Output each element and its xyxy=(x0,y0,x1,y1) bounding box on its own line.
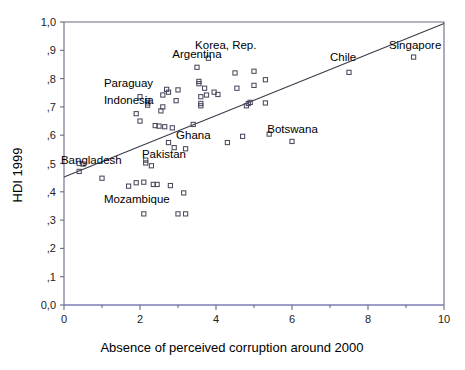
chart-canvas: 0,0,1,2,3,4,5,6,7,8,91,0 0246810 Korea, … xyxy=(0,0,465,370)
x-axis-ticks: 0246810 xyxy=(61,305,450,325)
y-tick-label: 1,0 xyxy=(41,16,56,28)
x-tick-label: 4 xyxy=(213,313,219,325)
y-tick-label: ,8 xyxy=(47,73,56,85)
data-point xyxy=(144,161,148,165)
y-tick-label: ,6 xyxy=(47,129,56,141)
data-point xyxy=(233,71,237,75)
y-tick-label: ,1 xyxy=(47,271,56,283)
point-label: Argentina xyxy=(172,48,222,60)
point-label: Singapore xyxy=(389,39,441,51)
data-point xyxy=(176,212,180,216)
scatter-chart: 0,0,1,2,3,4,5,6,7,8,91,0 0246810 Korea, … xyxy=(0,0,465,370)
data-point xyxy=(149,164,153,168)
y-tick-label: ,4 xyxy=(47,186,56,198)
point-labels: Korea, Rep.ArgentinaSingaporeChileParagu… xyxy=(61,39,441,205)
data-point xyxy=(241,134,245,138)
data-point xyxy=(347,70,351,74)
point-label: Bangladesh xyxy=(61,154,122,166)
data-point xyxy=(182,191,186,195)
y-tick-label: ,2 xyxy=(47,242,56,254)
data-point xyxy=(204,93,208,97)
y-tick-label: ,9 xyxy=(47,44,56,56)
data-point xyxy=(195,65,199,69)
data-point xyxy=(252,69,256,73)
data-point xyxy=(142,212,146,216)
data-point xyxy=(235,86,239,90)
data-point xyxy=(263,101,267,105)
data-point xyxy=(100,176,104,180)
point-label: Indonesia xyxy=(104,94,154,106)
x-tick-label: 6 xyxy=(289,313,295,325)
point-label: Ghana xyxy=(176,129,211,141)
y-axis-title: HDI 1999 xyxy=(10,148,25,203)
data-point xyxy=(134,112,138,116)
data-point xyxy=(142,180,146,184)
x-axis-title: Absence of perceived corruption around 2… xyxy=(100,340,363,355)
data-point xyxy=(203,86,207,90)
data-point xyxy=(166,140,170,144)
data-point xyxy=(412,55,416,59)
y-tick-label: 0,0 xyxy=(41,299,56,311)
x-tick-label: 10 xyxy=(438,313,450,325)
point-label: Pakistan xyxy=(142,148,186,160)
point-label: Botswana xyxy=(267,123,318,135)
data-point xyxy=(199,95,203,99)
data-point xyxy=(290,139,294,143)
data-point xyxy=(252,83,256,87)
data-point xyxy=(225,140,229,144)
data-point xyxy=(127,184,131,188)
x-tick-label: 0 xyxy=(61,313,67,325)
data-point xyxy=(168,183,172,187)
data-point xyxy=(170,126,174,130)
data-point xyxy=(163,125,167,129)
data-point xyxy=(174,99,178,103)
data-point xyxy=(138,119,142,123)
point-label: Paraguay xyxy=(104,77,153,89)
point-label: Chile xyxy=(330,51,356,63)
data-point xyxy=(176,88,180,92)
y-tick-label: ,5 xyxy=(47,158,56,170)
data-point xyxy=(184,212,188,216)
point-label: Mozambique xyxy=(104,193,170,205)
y-tick-label: ,3 xyxy=(47,214,56,226)
data-point xyxy=(134,181,138,185)
data-point xyxy=(263,78,267,82)
data-point xyxy=(161,93,165,97)
y-tick-label: ,7 xyxy=(47,101,56,113)
x-tick-label: 8 xyxy=(365,313,371,325)
x-tick-label: 2 xyxy=(137,313,143,325)
